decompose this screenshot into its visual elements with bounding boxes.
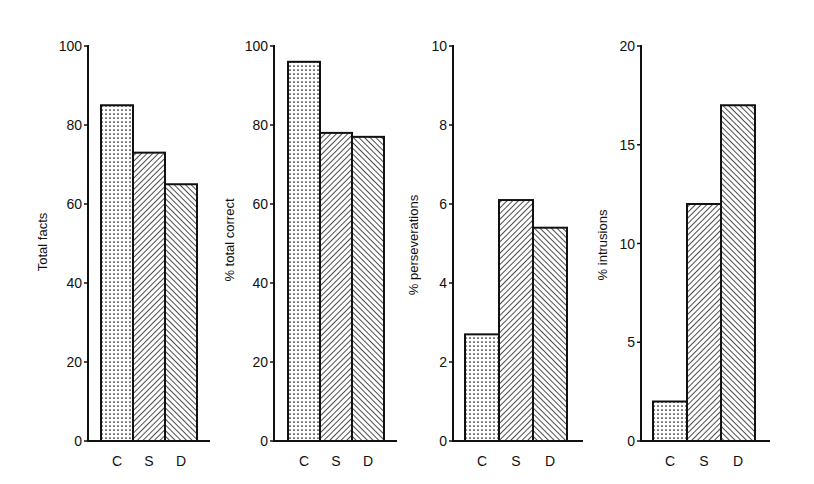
category-label: D	[363, 453, 373, 469]
bar-d	[352, 137, 384, 441]
category-label: S	[511, 453, 520, 469]
bar-s	[499, 200, 533, 441]
category-label: C	[477, 453, 487, 469]
y-tick-label: 0	[260, 433, 268, 449]
y-tick-label: 40	[66, 275, 82, 291]
y-tick-label: 10	[431, 38, 447, 54]
y-tick-label: 80	[252, 117, 268, 133]
y-tick-label: 0	[74, 433, 82, 449]
y-tick-label: 10	[619, 236, 635, 252]
bar-c	[288, 62, 320, 441]
y-tick-label: 20	[66, 354, 82, 370]
y-tick-label: 4	[439, 275, 447, 291]
y-tick-label: 8	[439, 117, 447, 133]
y-tick-label: 60	[66, 196, 82, 212]
category-label: C	[299, 453, 309, 469]
bar-s	[687, 204, 721, 441]
figure: CSD020406080100Total factsCSD02040608010…	[0, 0, 814, 484]
bar-d	[165, 184, 197, 441]
bar-c	[101, 105, 133, 441]
category-label: D	[545, 453, 555, 469]
chart-panel-3: CSD0246810% perseverations	[406, 38, 583, 469]
y-axis-label: Total facts	[35, 212, 50, 271]
bar-chart-panels: CSD020406080100Total factsCSD02040608010…	[0, 0, 814, 484]
y-tick-label: 6	[439, 196, 447, 212]
y-tick-label: 0	[627, 433, 635, 449]
y-tick-label: 2	[439, 354, 447, 370]
category-label: C	[112, 453, 122, 469]
y-tick-label: 20	[252, 354, 268, 370]
y-tick-label: 100	[245, 38, 269, 54]
y-axis-label: % perseverations	[406, 194, 421, 295]
y-tick-label: 80	[66, 117, 82, 133]
category-label: S	[331, 453, 340, 469]
bar-d	[721, 105, 755, 441]
y-tick-label: 0	[439, 433, 447, 449]
y-tick-label: 60	[252, 196, 268, 212]
category-label: D	[176, 453, 186, 469]
y-tick-label: 20	[619, 38, 635, 54]
category-label: D	[733, 453, 743, 469]
bar-d	[533, 228, 567, 441]
chart-panel-2: CSD020406080100% total correct	[222, 38, 397, 469]
category-label: C	[665, 453, 675, 469]
bar-c	[465, 334, 499, 441]
y-tick-label: 5	[627, 334, 635, 350]
y-tick-label: 100	[59, 38, 83, 54]
bar-s	[133, 153, 165, 441]
y-tick-label: 40	[252, 275, 268, 291]
chart-panel-1: CSD020406080100Total facts	[35, 38, 210, 469]
category-label: S	[699, 453, 708, 469]
y-axis-label: % total correct	[222, 198, 237, 281]
category-label: S	[144, 453, 153, 469]
bar-s	[320, 133, 352, 441]
y-axis-label: % intrusions	[595, 209, 610, 280]
chart-panel-4: CSD05101520% intrusions	[595, 38, 770, 469]
bar-c	[653, 402, 687, 442]
y-tick-label: 15	[619, 137, 635, 153]
